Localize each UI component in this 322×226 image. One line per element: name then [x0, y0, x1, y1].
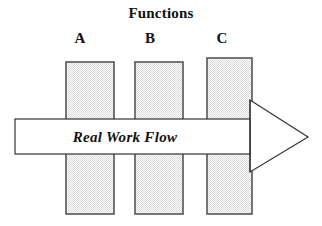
figure-title: Functions [0, 5, 322, 22]
column-label-a: A [75, 30, 86, 47]
column-label-b: B [145, 30, 155, 47]
arrow-head-icon [250, 100, 308, 172]
real-work-flow-label: Real Work Flow [73, 129, 178, 146]
diagram-graphics [0, 0, 322, 226]
column-label-c: C [217, 30, 228, 47]
diagram-canvas: Functions A B C Real Work Flow [0, 0, 322, 226]
